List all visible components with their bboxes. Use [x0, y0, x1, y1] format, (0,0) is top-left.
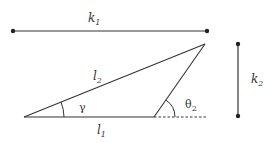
k1-endpoint-left [11, 29, 15, 33]
theta2-label: θ2 [185, 98, 197, 113]
k2-endpoint-top [236, 42, 240, 46]
k2-label: k2 [251, 72, 263, 88]
l1-label: l1 [97, 123, 106, 139]
k2-endpoint-bottom [236, 114, 240, 118]
third-side-segment [154, 44, 205, 117]
theta2-arc [166, 100, 175, 117]
l2-label: l2 [93, 69, 102, 85]
diagram-canvas: k1 l2 γ l1 θ2 k2 [0, 0, 271, 143]
k1-label: k1 [88, 11, 100, 27]
k1-endpoint-right [205, 29, 209, 33]
l2-segment [24, 44, 205, 117]
gamma-label: γ [79, 101, 86, 114]
gamma-arc [61, 102, 64, 117]
